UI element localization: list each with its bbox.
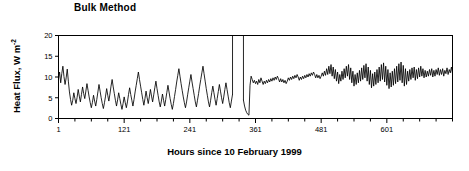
- x-tick-label: 121: [118, 125, 131, 134]
- plot-area: 05101520 1121241361481601: [0, 0, 469, 171]
- y-tick-label: 10: [44, 73, 52, 82]
- x-tick-label: 241: [184, 125, 197, 134]
- x-tick-label: 601: [381, 125, 394, 134]
- x-tick-label: 481: [315, 125, 328, 134]
- y-tick-label: 20: [44, 31, 52, 40]
- y-tick-label: 0: [48, 114, 52, 123]
- plot-frame: [59, 36, 453, 119]
- x-tick-label: 1: [56, 125, 60, 134]
- x-axis-ticks: 1121241361481601: [56, 119, 452, 134]
- chart-figure: Bulk Method Heat Flux, W m-2 Hours since…: [0, 0, 469, 171]
- y-axis-ticks: 05101520: [44, 31, 58, 123]
- y-tick-label: 15: [44, 52, 52, 61]
- y-tick-label: 5: [48, 94, 52, 103]
- plot-frame-rect: [59, 36, 453, 119]
- x-tick-label: 361: [249, 125, 262, 134]
